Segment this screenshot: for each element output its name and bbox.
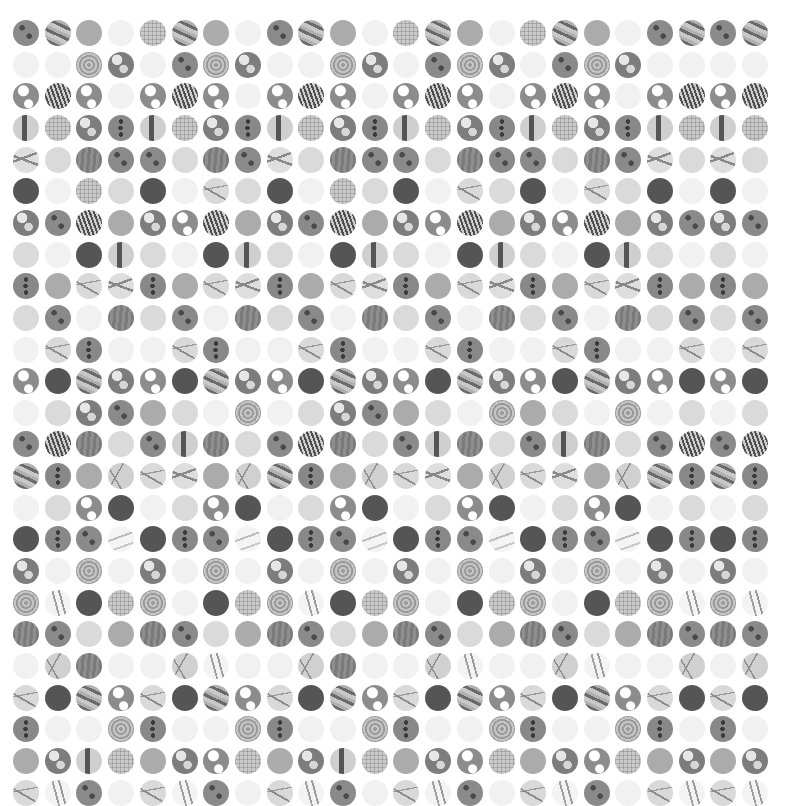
texture-swatch-flat	[235, 621, 261, 647]
texture-swatch-light	[742, 400, 768, 426]
texture-swatch-dark	[45, 685, 71, 711]
texture-swatch-light	[108, 431, 134, 457]
texture-swatch-spots	[76, 526, 102, 552]
texture-swatch-plaid	[108, 590, 134, 616]
texture-swatch-patchy	[584, 83, 610, 109]
texture-swatch-blank	[298, 52, 324, 78]
texture-swatch-marble	[13, 685, 39, 711]
texture-swatch-blank	[235, 653, 261, 679]
texture-swatch-patchy	[457, 83, 483, 109]
texture-swatch-dots	[13, 716, 39, 742]
texture-swatch-spots	[362, 147, 388, 173]
texture-swatch-blank	[520, 495, 546, 521]
texture-swatch-blob	[647, 558, 673, 584]
texture-swatch-wave	[552, 463, 578, 489]
texture-swatch-veil	[489, 526, 515, 552]
texture-swatch-flat	[489, 621, 515, 647]
texture-swatch-tangled	[425, 653, 451, 679]
texture-swatch-blank	[647, 400, 673, 426]
texture-swatch-blank	[393, 653, 419, 679]
texture-swatch-plaid	[742, 115, 768, 141]
texture-swatch-brain	[520, 590, 546, 616]
texture-swatch-flat	[425, 273, 451, 299]
texture-swatch-dark	[13, 178, 39, 204]
texture-swatch-flat	[615, 210, 641, 236]
texture-swatch-blob	[679, 748, 705, 774]
texture-swatch-dark	[584, 590, 610, 616]
texture-swatch-wave	[267, 147, 293, 173]
texture-swatch-patchy	[393, 368, 419, 394]
texture-swatch-patchy	[172, 210, 198, 236]
texture-swatch-flat	[457, 463, 483, 489]
texture-swatch-brain	[267, 590, 293, 616]
texture-swatch-patchy	[425, 210, 451, 236]
texture-swatch-brain	[584, 52, 610, 78]
texture-swatch-stripes	[203, 368, 229, 394]
texture-swatch-spots	[13, 20, 39, 46]
texture-swatch-spots	[710, 20, 736, 46]
texture-swatch-blob	[393, 558, 419, 584]
texture-swatch-blank	[362, 83, 388, 109]
texture-swatch-flat	[172, 273, 198, 299]
texture-swatch-blob	[298, 748, 324, 774]
texture-swatch-flat	[45, 273, 71, 299]
texture-swatch-dots	[552, 526, 578, 552]
texture-swatch-dots	[45, 463, 71, 489]
texture-swatch-blank	[393, 495, 419, 521]
texture-swatch-blank	[298, 242, 324, 268]
texture-swatch-light	[298, 147, 324, 173]
texture-swatch-leaf	[742, 83, 768, 109]
texture-swatch-marble	[140, 780, 166, 806]
texture-swatch-marble	[552, 337, 578, 363]
texture-swatch-feather	[742, 590, 768, 616]
texture-swatch-blank	[140, 653, 166, 679]
texture-swatch-marble	[393, 463, 419, 489]
texture-swatch-wood	[76, 431, 102, 457]
texture-swatch-dark	[267, 526, 293, 552]
texture-swatch-spots	[45, 305, 71, 331]
texture-swatch-plaid	[489, 590, 515, 616]
texture-swatch-stripes	[76, 685, 102, 711]
texture-swatch-spots	[552, 621, 578, 647]
texture-swatch-light	[45, 495, 71, 521]
texture-swatch-patchy	[267, 83, 293, 109]
texture-swatch-leaf	[679, 431, 705, 457]
texture-swatch-flat	[13, 748, 39, 774]
texture-swatch-brain	[647, 590, 673, 616]
texture-swatch-wave	[647, 147, 673, 173]
texture-swatch-blank	[520, 52, 546, 78]
texture-swatch-blank	[45, 178, 71, 204]
texture-swatch-spots	[298, 305, 324, 331]
texture-swatch-leaf	[457, 210, 483, 236]
texture-swatch-blank	[489, 780, 515, 806]
texture-swatch-dots	[235, 115, 261, 141]
texture-swatch-dark	[457, 590, 483, 616]
texture-swatch-bar	[552, 431, 578, 457]
texture-swatch-dark	[330, 590, 356, 616]
texture-swatch-flat	[520, 748, 546, 774]
texture-swatch-patchy	[710, 368, 736, 394]
texture-swatch-feather	[552, 780, 578, 806]
texture-swatch-blank	[45, 242, 71, 268]
texture-swatch-dark	[140, 526, 166, 552]
texture-swatch-blob	[140, 558, 166, 584]
texture-swatch-blob	[108, 368, 134, 394]
texture-swatch-dark	[457, 242, 483, 268]
texture-swatch-plaid	[235, 590, 261, 616]
texture-swatch-leaf	[584, 210, 610, 236]
texture-swatch-blob	[710, 210, 736, 236]
texture-swatch-blank	[362, 558, 388, 584]
texture-swatch-feather	[584, 653, 610, 679]
texture-swatch-wood	[330, 653, 356, 679]
texture-swatch-tangled	[615, 463, 641, 489]
texture-swatch-dark	[13, 526, 39, 552]
texture-swatch-marble	[679, 337, 705, 363]
texture-swatch-stripes	[552, 20, 578, 46]
texture-swatch-spots	[520, 147, 546, 173]
texture-swatch-patchy	[140, 368, 166, 394]
texture-swatch-spots	[362, 400, 388, 426]
texture-swatch-blank	[108, 780, 134, 806]
texture-swatch-blob	[108, 52, 134, 78]
texture-swatch-plaid	[615, 590, 641, 616]
texture-swatch-light	[552, 400, 578, 426]
